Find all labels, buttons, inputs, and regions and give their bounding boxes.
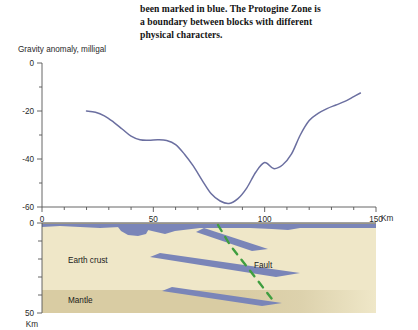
section-depth-ticks (37, 223, 42, 313)
fault-label: Fault (254, 261, 273, 270)
section-depth-unit-label: Km (26, 320, 38, 329)
caption-line-3: physical characters. (140, 28, 408, 41)
geological-cross-section: 050 Km Earth crust Mantle Fault (0, 215, 418, 330)
svg-text:-40: -40 (22, 155, 34, 164)
svg-text:-20: -20 (22, 107, 34, 116)
gravity-anomaly-chart: 0501001500-20-40-60 Km (0, 55, 418, 225)
svg-text:0: 0 (29, 219, 34, 228)
caption-line-1: been marked in blue. The Protogine Zone … (140, 2, 408, 15)
svg-text:0: 0 (29, 59, 34, 68)
svg-text:-60: -60 (22, 203, 34, 212)
chart-tick-labels: 0501001500-20-40-60 (22, 59, 383, 224)
earth-crust-label: Earth crust (68, 256, 108, 265)
section-depth-tick-labels: 050 (25, 219, 35, 318)
mantle-label: Mantle (68, 296, 93, 305)
svg-text:50: 50 (25, 309, 35, 318)
figure-caption: been marked in blue. The Protogine Zone … (140, 2, 408, 42)
figure-root: been marked in blue. The Protogine Zone … (0, 0, 418, 330)
chart-axis-title: Gravity anomaly, milligal (18, 45, 106, 54)
caption-line-2: a boundary between blocks with different (140, 15, 408, 28)
chart-axis-ticks (37, 63, 376, 212)
gravity-anomaly-curve (87, 93, 361, 203)
